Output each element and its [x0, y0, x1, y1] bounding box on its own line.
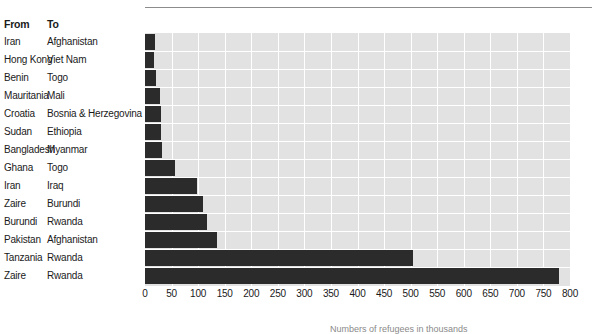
table-row: BurundiRwanda — [0, 213, 145, 231]
bar — [145, 142, 162, 158]
bar-slot — [145, 105, 570, 123]
x-axis-tick-label: 50 — [166, 288, 177, 299]
x-axis-tick-label: 500 — [403, 288, 419, 299]
bar-slot — [145, 231, 570, 249]
bar-slot — [145, 87, 570, 105]
x-axis-tick-label: 0 — [142, 288, 147, 299]
cell-from: Zaire — [4, 267, 26, 285]
table-row: BeninTogo — [0, 69, 145, 87]
table-row: IranIraq — [0, 177, 145, 195]
bar — [145, 124, 161, 140]
bar-slot — [145, 51, 570, 69]
cell-from: Burundi — [4, 213, 37, 231]
cell-from: Tanzania — [4, 249, 42, 267]
cell-to: Afghanistan — [47, 231, 98, 249]
bar — [145, 34, 155, 50]
x-axis-tick-label: 450 — [376, 288, 392, 299]
bar — [145, 268, 559, 284]
bar-slot — [145, 69, 570, 87]
x-axis-tick-label: 400 — [349, 288, 365, 299]
bar-slot — [145, 123, 570, 141]
bar-slot — [145, 33, 570, 51]
cell-from: Zaire — [4, 195, 26, 213]
cell-to: Togo — [47, 69, 68, 87]
table-row: IranAfghanistan — [0, 33, 145, 51]
cell-to: Rwanda — [47, 267, 83, 285]
table-row: PakistanAfghanistan — [0, 231, 145, 249]
bar — [145, 52, 154, 68]
plot-area — [145, 33, 570, 286]
bar-slot — [145, 141, 570, 159]
bar — [145, 106, 161, 122]
table-header-row: From To — [0, 15, 145, 33]
cell-to: Iraq — [47, 177, 63, 195]
x-axis-tick-label: 300 — [296, 288, 312, 299]
x-axis-tick-label: 650 — [482, 288, 498, 299]
cell-to: Mali — [47, 87, 65, 105]
x-axis-tick-label: 150 — [217, 288, 233, 299]
x-axis-tick-label: 200 — [243, 288, 259, 299]
row-labels-list: IranAfghanistanHong KongViet NamBeninTog… — [0, 33, 145, 285]
table-row: ZaireRwanda — [0, 267, 145, 285]
cell-from: Iran — [4, 177, 20, 195]
bar — [145, 70, 156, 86]
cell-to: Ethiopia — [47, 123, 82, 141]
table-row: Hong KongViet Nam — [0, 51, 145, 69]
footnote: Numbers of refugees in thousands — [330, 324, 468, 334]
bar — [145, 196, 203, 212]
top-rule — [145, 7, 592, 8]
bar-slot — [145, 177, 570, 195]
x-axis-tick-label: 550 — [429, 288, 445, 299]
cell-to: Afghanistan — [47, 33, 98, 51]
cell-to: Rwanda — [47, 249, 83, 267]
cell-from: Croatia — [4, 105, 35, 123]
bar — [145, 250, 413, 266]
x-axis: 0501001502002503003504004505005506006507… — [145, 288, 570, 302]
x-axis-tick-label: 750 — [535, 288, 551, 299]
cell-from: Iran — [4, 33, 20, 51]
cell-from: Ghana — [4, 159, 33, 177]
cell-to: Myanmar — [47, 141, 87, 159]
column-header-from: From — [4, 15, 29, 33]
column-header-to: To — [47, 15, 59, 33]
x-axis-tick-label: 800 — [562, 288, 578, 299]
table-row: TanzaniaRwanda — [0, 249, 145, 267]
cell-to: Bosnia & Herzegovina — [47, 105, 142, 123]
bar-slot — [145, 249, 570, 267]
bar-slot — [145, 213, 570, 231]
bar-slot — [145, 195, 570, 213]
bar — [145, 88, 160, 104]
cell-to: Viet Nam — [47, 51, 86, 69]
x-axis-tick-label: 700 — [509, 288, 525, 299]
cell-from: Mauritania — [4, 87, 49, 105]
x-axis-tick-label: 350 — [323, 288, 339, 299]
bar — [145, 232, 217, 248]
row-labels-column: From To IranAfghanistanHong KongViet Nam… — [0, 15, 145, 285]
bar — [145, 160, 175, 176]
cell-from: Benin — [4, 69, 29, 87]
bar-slot — [145, 159, 570, 177]
cell-from: Hong Kong — [4, 51, 52, 69]
cell-to: Burundi — [47, 195, 80, 213]
cell-from: Pakistan — [4, 231, 41, 249]
x-axis-tick-label: 600 — [456, 288, 472, 299]
table-row: GhanaTogo — [0, 159, 145, 177]
bar-slot — [145, 267, 570, 285]
cell-to: Togo — [47, 159, 68, 177]
gridline-vertical — [570, 33, 571, 286]
table-row: SudanEthiopia — [0, 123, 145, 141]
cell-to: Rwanda — [47, 213, 83, 231]
x-axis-tick-label: 100 — [190, 288, 206, 299]
table-row: BangladeshMyanmar — [0, 141, 145, 159]
cell-from: Sudan — [4, 123, 32, 141]
x-axis-tick-label: 250 — [270, 288, 286, 299]
bar — [145, 178, 197, 194]
bar — [145, 214, 207, 230]
table-row: CroatiaBosnia & Herzegovina — [0, 105, 145, 123]
table-row: ZaireBurundi — [0, 195, 145, 213]
bars-layer — [145, 33, 570, 286]
table-row: MauritaniaMali — [0, 87, 145, 105]
